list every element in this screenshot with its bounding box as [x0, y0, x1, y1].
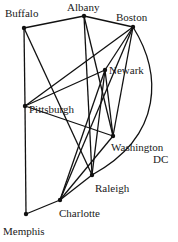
- edge-charlotte-memphis: [26, 200, 60, 214]
- edge-newark-charlotte: [60, 70, 105, 200]
- node-newark: [103, 68, 107, 72]
- label-albany: Albany: [67, 2, 99, 13]
- label-washington: Washington: [111, 142, 163, 153]
- label-boston: Boston: [116, 12, 147, 23]
- edge-pittsburgh-memphis: [25, 106, 26, 214]
- label-washington-dc: DC: [153, 154, 168, 165]
- label-raleigh: Raleigh: [95, 183, 129, 194]
- node-pittsburgh: [23, 104, 27, 108]
- node-washington: [111, 134, 115, 138]
- node-albany: [82, 14, 86, 18]
- label-buffalo: Buffalo: [5, 8, 38, 19]
- node-boston: [131, 25, 135, 29]
- node-buffalo: [22, 26, 26, 30]
- label-pittsburgh: Pittsburgh: [29, 104, 74, 115]
- graph-canvas: [0, 0, 178, 242]
- edge-albany-raleigh: [84, 16, 92, 175]
- label-charlotte: Charlotte: [59, 208, 100, 219]
- edge-buffalo-pittsburgh: [24, 28, 25, 106]
- label-memphis: Memphis: [3, 226, 45, 237]
- node-raleigh: [90, 173, 94, 177]
- node-charlotte: [58, 198, 62, 202]
- node-memphis: [24, 212, 28, 216]
- edge-newark-washington: [105, 70, 113, 136]
- label-newark: Newark: [109, 65, 144, 76]
- edge-newark-pittsburgh: [25, 70, 105, 106]
